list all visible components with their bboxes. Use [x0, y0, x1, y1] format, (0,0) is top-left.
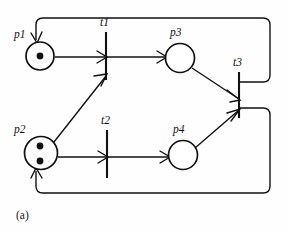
place-p3-label: p3	[169, 26, 182, 39]
place-p1-label: p1	[13, 28, 26, 41]
place-p4-circle[interactable]	[169, 141, 198, 170]
place-p1[interactable]: p1	[13, 28, 54, 70]
arc-t3-to-p1	[31, 18, 270, 82]
place-p2-circle[interactable]	[25, 137, 58, 170]
arc-p3-to-t3	[192, 68, 240, 102]
transition-t2[interactable]: t2	[101, 114, 110, 178]
arc-p2-to-t2	[58, 151, 108, 163]
figure-caption: (a)	[16, 209, 29, 222]
arc-p4-t3-path	[195, 110, 239, 148]
arc-p2-to-t1	[54, 74, 107, 142]
place-p2-label: p2	[13, 123, 26, 136]
transition-t2-label: t2	[101, 114, 110, 126]
petri-net-figure: t1 t2 t3 p1 p2 p3	[0, 0, 290, 232]
place-p4-label: p4	[172, 123, 185, 136]
place-p2[interactable]: p2	[13, 123, 58, 170]
place-p3[interactable]: p3	[166, 26, 195, 73]
arc-t3-p1-path	[36, 18, 270, 82]
place-p1-token-1	[37, 53, 44, 60]
arc-p4-to-t3	[195, 109, 240, 148]
arc-t2-to-p4	[108, 151, 170, 163]
arc-t1-to-p3	[107, 51, 167, 63]
transition-t1[interactable]: t1	[100, 16, 109, 80]
arc-t3-to-p2	[31, 108, 270, 193]
transition-t1-label: t1	[100, 16, 109, 28]
petri-net-canvas: t1 t2 t3 p1 p2 p3	[0, 0, 290, 232]
transition-t3-label: t3	[233, 56, 242, 68]
place-p3-circle[interactable]	[166, 44, 195, 73]
arc-p2-t1-path	[54, 76, 106, 142]
arc-p1-to-t1	[55, 51, 107, 63]
place-p4[interactable]: p4	[169, 123, 198, 170]
place-p2-token-2	[37, 158, 44, 165]
place-p2-token-1	[37, 143, 44, 150]
